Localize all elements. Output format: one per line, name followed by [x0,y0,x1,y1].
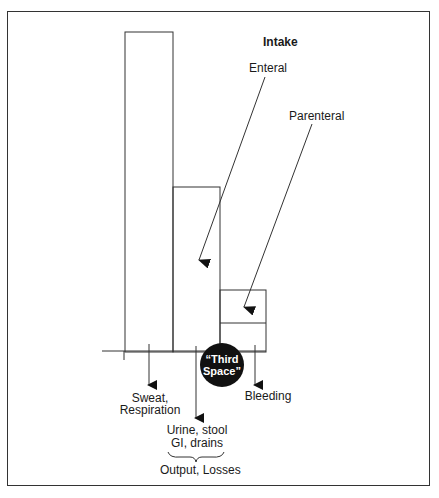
enteral-bar [173,187,220,352]
third-space-line1: “Third [206,353,239,365]
sweat-label-line2: Respiration [118,404,182,417]
intake-title: Intake [263,36,298,49]
output-brace [168,452,224,462]
third-space-line2: Space” [203,365,241,377]
bleeding-label: Bleeding [241,390,295,403]
third-space-label: “Third Space” [200,343,244,387]
enteral-label: Enteral [249,62,287,75]
parenteral-arrow [244,124,312,307]
parenteral-label: Parenteral [289,110,344,123]
urine-label-line2: GI, drains [166,437,228,450]
output-losses-label: Output, Losses [160,464,234,477]
enteral-arrow [199,77,265,260]
tall-bar [125,32,173,352]
